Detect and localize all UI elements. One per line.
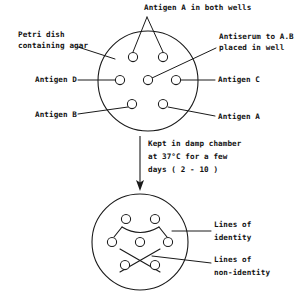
result-well-top-left[interactable] xyxy=(121,214,130,223)
label-antigen-c: Antigen C xyxy=(218,75,260,85)
label-petri-dish-line2: containing agar xyxy=(18,41,88,51)
result-well-right[interactable] xyxy=(163,237,172,246)
label-incubation-line2: at 37°C for a few xyxy=(148,152,227,162)
label-lines-of-identity-line2: identity xyxy=(214,233,251,243)
leader-antigen-a-left xyxy=(133,17,147,52)
label-petri-dish-line1: Petri dish xyxy=(18,30,65,40)
label-antigen-a-both-wells: Antigen A in both wells xyxy=(144,3,251,13)
well-antigen-a-top-right[interactable] xyxy=(158,52,167,61)
label-incubation-line1: Kept in damp chamber xyxy=(148,139,241,149)
well-antigen-a-bottom[interactable] xyxy=(158,99,167,108)
result-well-bottom-left[interactable] xyxy=(120,260,129,269)
precipitin-identity-right-tail xyxy=(159,227,167,237)
well-antigen-b[interactable] xyxy=(127,99,136,108)
label-antigen-a: Antigen A xyxy=(218,112,260,122)
label-antiserum-line1: Antiserum to A.B. xyxy=(219,32,295,42)
result-well-left[interactable] xyxy=(107,237,116,246)
well-antiserum-center[interactable] xyxy=(143,75,152,84)
result-well-center[interactable] xyxy=(135,237,144,246)
diagram-canvas: Antigen A in both wells Petri dish conta… xyxy=(0,0,295,298)
label-incubation-line3: days ( 2 - 10 ) xyxy=(148,165,218,175)
label-lines-of-identity-line1: Lines of xyxy=(214,220,251,230)
label-antigen-b: Antigen B xyxy=(35,110,77,120)
leader-antigen-b xyxy=(78,107,128,114)
well-antigen-c[interactable] xyxy=(171,75,180,84)
leader-antigen-a-right xyxy=(147,17,163,52)
label-lines-of-non-identity-line2: non-identity xyxy=(214,268,270,278)
precipitin-line-of-identity-arc xyxy=(122,227,159,233)
label-lines-of-non-identity-line1: Lines of xyxy=(214,255,251,265)
well-antigen-d[interactable] xyxy=(115,75,124,84)
label-antiserum-line2: placed in well xyxy=(219,43,284,53)
result-well-bottom-right[interactable] xyxy=(150,260,159,269)
leader-lines-of-non-identity xyxy=(152,256,211,263)
leader-antigen-a-bottom xyxy=(168,107,215,116)
label-antigen-d: Antigen D xyxy=(35,75,77,85)
precipitin-identity-left-tail xyxy=(114,227,122,237)
well-antigen-a-top-left[interactable] xyxy=(128,52,137,61)
result-well-top-right[interactable] xyxy=(150,214,159,223)
